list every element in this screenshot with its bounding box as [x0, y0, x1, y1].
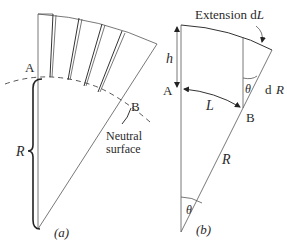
- caption-b: (b): [196, 222, 211, 237]
- label-dR-d: d: [265, 82, 272, 97]
- extension-label: Extension dL: [195, 7, 264, 22]
- label-b-point-B: B: [246, 110, 255, 125]
- label-dR-R: R: [275, 82, 284, 97]
- label-L: L: [205, 98, 214, 113]
- panel-a: A B R Neutral surface (a): [5, 14, 157, 240]
- label-b-R: R: [221, 152, 231, 167]
- extension-pointer: [256, 26, 262, 42]
- caption-a: (a): [54, 225, 69, 240]
- label-a-R: R: [15, 144, 25, 159]
- radius-brace: [28, 79, 42, 229]
- label-surface: surface: [106, 142, 141, 156]
- bending-beam-diagram: A B R Neutral surface (a) Extension dL h…: [0, 0, 287, 246]
- label-theta-top: θ: [245, 82, 251, 96]
- b-radial-line: [181, 50, 272, 232]
- label-b-point-A: A: [163, 83, 173, 98]
- label-a-point-B: B: [131, 99, 140, 114]
- label-theta-apex: θ: [186, 203, 192, 217]
- label-a-point-A: A: [25, 60, 35, 75]
- label-h: h: [166, 51, 173, 66]
- label-neutral: Neutral: [106, 129, 143, 143]
- block-separators: [50, 14, 125, 92]
- theta-arc-top: [243, 76, 257, 79]
- b-top-arc: [181, 25, 272, 50]
- panel-b: Extension dL h A L B θ d R R θ (b): [163, 7, 284, 237]
- neutral-pointer: [122, 108, 131, 124]
